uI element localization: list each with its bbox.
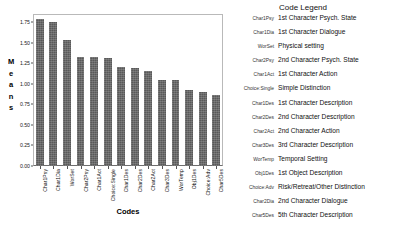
legend-code: WorSet <box>228 44 278 49</box>
x-tick-label: WorSet <box>69 169 75 186</box>
y-tick-label: 0.75 <box>20 101 30 107</box>
legend-description: 3rd Character Description <box>278 141 353 148</box>
legend-code: WorTemp <box>228 157 278 162</box>
code-legend: Code Legend Char1Psy1st Character Psych.… <box>228 0 394 240</box>
legend-title: Code Legend <box>228 3 378 12</box>
legend-code: Char2Psy <box>228 58 278 63</box>
legend-row: Char3Des3rd Character Description <box>228 141 394 155</box>
x-tick-label: WorTemp <box>178 169 184 191</box>
plot-area: 0.000.250.500.751.001.251.501.75 Char1Ps… <box>33 14 223 166</box>
x-tick-label: Char2Act <box>150 169 156 191</box>
legend-description: 1st Character Dialogue <box>278 28 345 35</box>
legend-row: Char2Psy2nd Character Psych. State <box>228 56 394 70</box>
y-tick-label: 0.25 <box>20 142 30 148</box>
bar <box>104 58 112 166</box>
legend-code: Char1Psy <box>228 16 278 21</box>
legend-row: Char1Psy1st Character Psych. State <box>228 14 394 28</box>
bar <box>77 57 85 166</box>
x-tick-mark <box>162 166 163 169</box>
y-tick-label: 1.00 <box>20 81 30 87</box>
x-tick-mark <box>203 166 204 169</box>
bar <box>144 71 152 166</box>
bar <box>63 40 71 166</box>
legend-description: 2nd Character Description <box>278 113 355 120</box>
legend-rows: Char1Psy1st Character Psych. StateChar1D… <box>228 14 394 225</box>
bar <box>172 80 180 166</box>
legend-description: 1st Character Action <box>278 70 337 77</box>
bar <box>49 22 57 166</box>
legend-description: 1st Character Psych. State <box>278 14 356 21</box>
y-tick-label: 1.25 <box>20 60 30 66</box>
x-tick-mark <box>135 166 136 169</box>
y-tick-label: 1.50 <box>20 40 30 46</box>
legend-row: Char5Des5th Character Description <box>228 211 394 225</box>
x-tick-mark <box>176 166 177 169</box>
bar <box>90 57 98 166</box>
legend-description: 1st Character Description <box>278 99 352 106</box>
legend-code: Char5Des <box>228 213 278 218</box>
y-tick-label: 0.00 <box>20 163 30 169</box>
legend-description: Temporal Setting <box>278 155 327 162</box>
bar-series: Char1PsyChar1DiaWorSetChar2PsyChar1ActCh… <box>33 14 223 166</box>
legend-row: Choice:SingleSimple Distinction <box>228 84 394 98</box>
y-tick-label: 0.50 <box>20 122 30 128</box>
x-tick-mark <box>81 166 82 169</box>
legend-row: Char1Act1st Character Action <box>228 70 394 84</box>
x-tick-label: Char2Psy <box>83 169 89 192</box>
x-tick-label: Char2Des <box>137 169 143 192</box>
x-tick-mark <box>108 166 109 169</box>
legend-code: Choice:Single <box>228 86 278 91</box>
y-axis-label-letter: n <box>5 91 17 103</box>
y-tick-label: 1.75 <box>20 19 30 25</box>
legend-code: Obj1Des <box>228 171 278 176</box>
x-tick-mark <box>67 166 68 169</box>
legend-row: Char1Dia1st Character Dialogue <box>228 28 394 42</box>
x-tick-label: Char1Psy <box>42 169 48 192</box>
legend-description: Simple Distinction <box>278 84 330 91</box>
bar <box>131 68 139 166</box>
legend-code: Char2Act <box>228 129 278 134</box>
x-tick-mark <box>189 166 190 169</box>
legend-description: 5th Character Description <box>278 211 353 218</box>
x-tick-mark <box>40 166 41 169</box>
bar <box>36 19 44 166</box>
legend-code: Char3Des <box>228 143 278 148</box>
y-axis-label: Means <box>5 56 17 114</box>
y-axis-label-letter: a <box>5 79 17 91</box>
legend-row: WorSetPhysical setting <box>228 42 394 56</box>
x-tick-label: Char5Des <box>218 169 224 192</box>
legend-description: Physical setting <box>278 42 324 49</box>
x-tick-label: Char3Des <box>164 169 170 192</box>
legend-row: Char2Act2nd Character Action <box>228 127 394 141</box>
legend-description: 1st Object Description <box>278 169 343 176</box>
legend-code: Char1Dia <box>228 30 278 35</box>
x-tick-label: Char1Des <box>123 169 129 192</box>
legend-row: Char1Des1st Character Description <box>228 99 394 113</box>
x-tick-label: Choice:Single <box>110 169 116 201</box>
legend-code: Char1Des <box>228 101 278 106</box>
x-axis-label: Codes <box>33 207 223 216</box>
legend-row: Char2Dia2nd Character Dialogue <box>228 197 394 211</box>
y-axis-label-letter: M <box>5 56 17 68</box>
bar <box>117 67 125 166</box>
x-tick-label: Char1Dia <box>55 169 61 191</box>
y-axis-label-letter: s <box>5 102 17 114</box>
legend-row: Choice:AdvRisk/Retreat/Other Distinction <box>228 183 394 197</box>
legend-code: Char2Dia <box>228 199 278 204</box>
bar <box>158 80 166 166</box>
legend-description: 2nd Character Psych. State <box>278 56 359 63</box>
figure-root: Means 0.000.250.500.751.001.251.501.75 C… <box>0 0 394 240</box>
legend-row: Obj1Des1st Object Description <box>228 169 394 183</box>
legend-code: Char2Des <box>228 115 278 120</box>
legend-code: Choice:Adv <box>228 185 278 190</box>
x-tick-label: Obj1Des <box>191 169 197 189</box>
legend-code: Char1Act <box>228 72 278 77</box>
x-tick-mark <box>94 166 95 169</box>
bar <box>199 92 207 166</box>
legend-row: WorTempTemporal Setting <box>228 155 394 169</box>
x-tick-label: Choice:Adv <box>205 169 211 196</box>
bar-chart: Means 0.000.250.500.751.001.251.501.75 C… <box>0 0 228 240</box>
bar <box>212 95 220 166</box>
legend-description: 2nd Character Dialogue <box>278 197 348 204</box>
x-tick-label: Char1Act <box>96 169 102 191</box>
